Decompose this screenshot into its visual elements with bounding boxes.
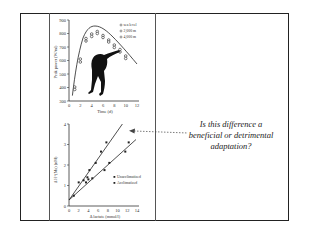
svg-text:900: 900 [59, 18, 67, 23]
svg-text:800: 800 [59, 31, 67, 36]
peak-power-chart: 300 400 500 600 700 800 900 024681012 Ti… [49, 14, 155, 114]
svg-text:0: 0 [68, 208, 71, 213]
svg-text:1: 1 [64, 183, 66, 188]
dotted-arrow-icon [128, 126, 190, 138]
panel-divider-right [155, 13, 156, 221]
svg-text:4: 4 [64, 122, 67, 127]
question-text: Is this difference a beneficial or detri… [183, 119, 279, 152]
svg-text:Time (d): Time (d) [97, 109, 113, 114]
svg-text:2: 2 [78, 208, 80, 213]
svg-text:4: 4 [91, 103, 94, 108]
svg-text:14: 14 [135, 208, 140, 213]
svg-text:700: 700 [59, 45, 67, 50]
svg-text:6: 6 [102, 103, 105, 108]
svg-text:10: 10 [123, 103, 128, 108]
svg-text:2: 2 [79, 103, 81, 108]
svg-text:Acclimatized: Acclimatized [117, 181, 137, 185]
svg-text:0: 0 [68, 103, 71, 108]
svg-text:0: 0 [64, 204, 67, 209]
svg-text:400: 400 [59, 85, 67, 90]
svg-text:Unacclimatized: Unacclimatized [117, 175, 141, 179]
svg-text:300: 300 [59, 99, 67, 104]
svg-text:2,000 m: 2,000 m [124, 29, 136, 34]
svg-text:sea level: sea level [124, 23, 137, 27]
svg-text:3: 3 [64, 142, 67, 147]
svg-text:Δ lactate (mmol/l): Δ lactate (mmol/l) [90, 214, 121, 219]
skater-silhouette-icon [88, 50, 120, 96]
svg-text:10: 10 [115, 208, 120, 213]
svg-text:4: 4 [87, 208, 90, 213]
svg-text:600: 600 [59, 58, 67, 63]
svg-text:4,000 m: 4,000 m [124, 35, 136, 40]
svg-text:8: 8 [113, 103, 116, 108]
svg-text:8: 8 [107, 208, 110, 213]
svg-text:6: 6 [97, 208, 100, 213]
svg-text:12: 12 [135, 103, 140, 108]
svg-text:Peak power (W/ml): Peak power (W/ml) [53, 45, 58, 79]
svg-text:12: 12 [125, 208, 130, 213]
svg-text:500: 500 [59, 72, 67, 77]
svg-text:2: 2 [64, 163, 66, 168]
svg-text:Δ H⁺(Ma) (nM): Δ H⁺(Ma) (nM) [53, 156, 58, 183]
